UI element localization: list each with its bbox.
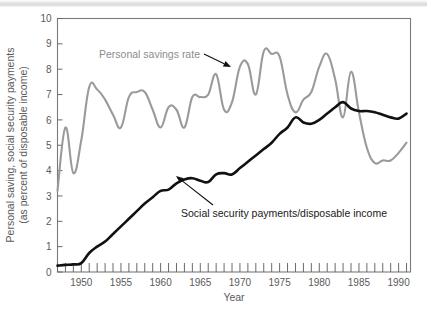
personal-savings-rate-annotation-text: Personal savings rate [99, 48, 200, 60]
line-chart-canvas: 012345678910 195019551960196519701975198… [0, 0, 427, 315]
y-tick-label: 4 [46, 165, 52, 176]
x-tick-label: 1970 [229, 277, 252, 288]
y-tick-label: 3 [46, 191, 52, 202]
social-security-payments-annotation-arrow-line [182, 181, 213, 205]
y-tick-label: 6 [46, 115, 52, 126]
y-axis-title: Personal saving, social security payment… [4, 48, 29, 243]
y-tick-label: 1 [46, 241, 52, 252]
x-tick-label: 1965 [189, 277, 212, 288]
y-tick-label: 2 [46, 216, 52, 227]
data-series-layer [58, 48, 407, 265]
x-tick-label: 1960 [149, 277, 172, 288]
x-tick-label: 1985 [348, 277, 371, 288]
series-line-personal-savings-rate [58, 48, 407, 191]
chart-figure: 012345678910 195019551960196519701975198… [0, 0, 427, 315]
x-tick-label: 1955 [110, 277, 133, 288]
y-tick-label: 0 [46, 267, 52, 278]
x-tick-label: 1990 [387, 277, 410, 288]
personal-savings-rate-annotation: Personal savings rate [99, 48, 231, 67]
y-axis-title-line1: Personal saving, social security payment… [4, 48, 16, 243]
y-axis-ticks: 012345678910 [40, 13, 62, 278]
x-tick-label: 1950 [70, 277, 93, 288]
x-axis-ticks: 195019551960196519701975198019851990 [58, 263, 411, 288]
social-security-payments-annotation-text: Social security payments/disposable inco… [181, 207, 387, 219]
y-tick-label: 10 [40, 13, 52, 24]
y-tick-label: 9 [46, 38, 52, 49]
series-line-social-security-payments [58, 102, 407, 266]
y-axis-title-line2: (as percent of disposable income) [17, 66, 29, 224]
y-tick-label: 8 [46, 64, 52, 75]
y-tick-label: 5 [46, 140, 52, 151]
y-tick-label: 7 [46, 89, 52, 100]
x-axis-title: Year [223, 291, 245, 303]
annotation-layer: Personal savings rateSocial security pay… [99, 48, 387, 219]
x-tick-label: 1975 [268, 277, 291, 288]
personal-savings-rate-annotation-arrow-line [204, 54, 224, 64]
x-tick-label: 1980 [308, 277, 331, 288]
